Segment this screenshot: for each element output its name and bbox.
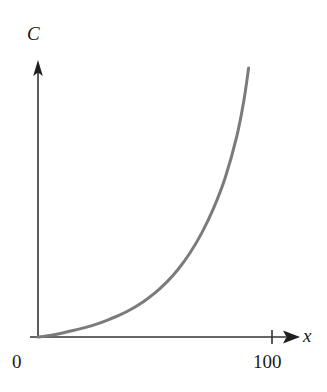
chart-figure: C x 0 100 [0,0,327,392]
origin-label: 0 [12,352,22,371]
x-axis-label: x [303,326,311,345]
y-axis [33,60,43,337]
x-tick-label-100: 100 [253,352,282,371]
chart-plot-area [0,0,327,392]
y-axis-label: C [27,24,40,43]
cost-curve [38,68,249,337]
